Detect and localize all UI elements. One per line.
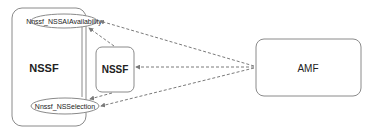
service-nsselection-label: Nnssf_NSSelection — [35, 103, 95, 111]
amf-label: AMF — [297, 63, 318, 74]
service-nsselection: Nnssf_NSSelection — [31, 98, 99, 114]
nssf-inner-box: NSSF — [96, 47, 134, 92]
edge-nssf-to-availability — [89, 28, 114, 46]
nssf-inner-label: NSSF — [102, 64, 129, 75]
service-nssai-availability-label: Nnssf_NSSAIAvailability — [26, 18, 102, 26]
amf-box: AMF — [256, 39, 361, 96]
diagram-canvas: NSSF Nnssf_NSSAIAvailability Nnssf_NSSel… — [0, 0, 372, 132]
edge-nssf-to-nsselection — [90, 93, 112, 99]
nssf-outer-label: NSSF — [29, 62, 59, 74]
